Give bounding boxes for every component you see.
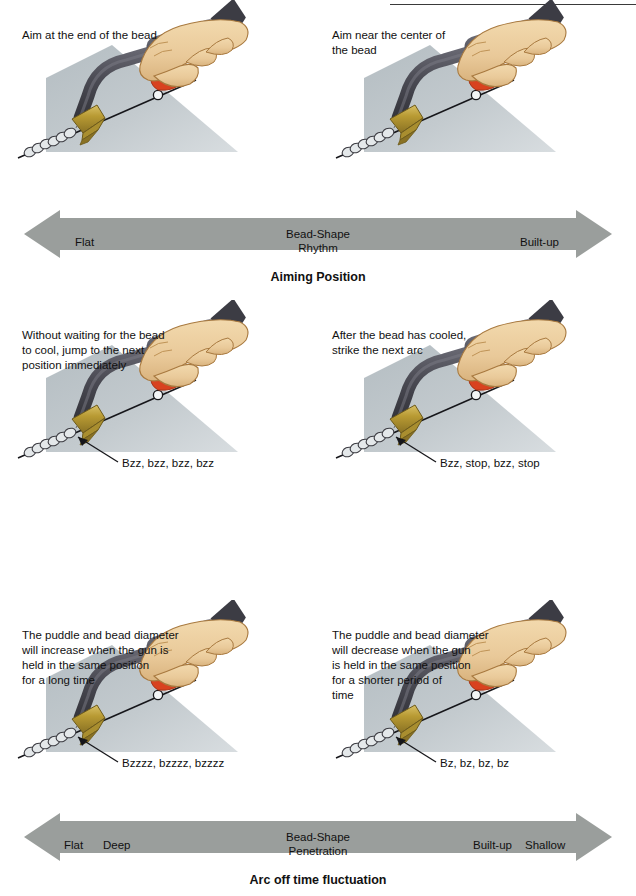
bead-callout-text: Bzzzz, bzzzz, bzzzz	[122, 757, 224, 769]
bead-callout-text: Bzz, stop, bzz, stop	[440, 457, 540, 469]
figure-caption: Aim at the end of the bead	[22, 28, 237, 43]
figure-left: Aim at the end of the bead	[0, 0, 318, 230]
panel-aiming-position: Aim at the end of the bead	[0, 0, 636, 300]
bar-label-center: Bead-Shape Rhythm	[251, 227, 385, 255]
figure-left: Bzz, bzz, bzz, bzz Without waiting for t…	[0, 300, 318, 530]
bar-label-left-0: Flat	[75, 235, 94, 249]
figure-caption: Aim near the center of the bead	[332, 28, 547, 58]
figure-right: Bz, bz, bz, bz The puddle and bead diame…	[318, 600, 636, 830]
figure-left: Bzzzz, bzzzz, bzzzz The puddle and bead …	[0, 600, 318, 830]
bead-callout-text: Bzz, bzz, bzz, bzz	[122, 457, 214, 469]
bead-shape-scale-bar: Flat Bead-Shape Rhythm Built-up Aiming P…	[0, 210, 636, 268]
panel-title: Aiming Position	[0, 270, 636, 284]
panel-arc-on-time: Bzzzz, bzzzz, bzzzz The puddle and bead …	[0, 600, 636, 896]
figure-caption: The puddle and bead diameter will increa…	[22, 628, 237, 688]
figure-caption: After the bead has cooled, strike the ne…	[332, 328, 547, 358]
figure-right: Aim near the center of the bead	[318, 0, 636, 230]
bar-label-right-0: Built-up	[520, 235, 559, 249]
figure-caption: The puddle and bead diameter will decrea…	[332, 628, 547, 703]
diagram-page: Aim at the end of the bead	[0, 0, 636, 896]
bead-callout-text: Bz, bz, bz, bz	[440, 757, 509, 769]
figure-caption: Without waiting for the bead to cool, ju…	[22, 328, 237, 373]
figure-right: Bzz, stop, bzz, stop After the bead has …	[318, 300, 636, 530]
panel-arc-off-time: Bzz, bzz, bzz, bzz Without waiting for t…	[0, 300, 636, 600]
